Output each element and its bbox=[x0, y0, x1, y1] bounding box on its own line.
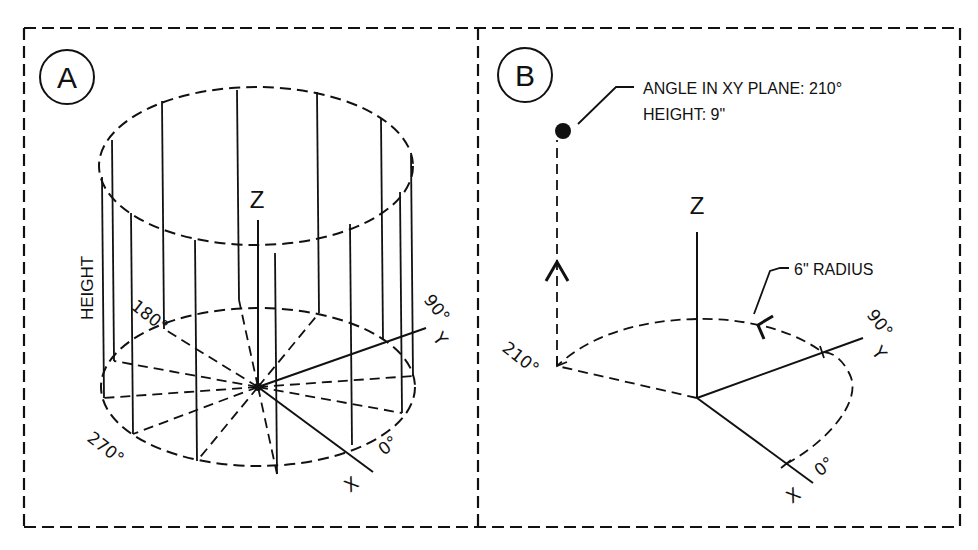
panel-a-label: A bbox=[57, 61, 77, 94]
cylinder-top-ellipse bbox=[99, 87, 413, 245]
angle-label-210: 210° bbox=[499, 337, 544, 378]
target-point bbox=[555, 123, 571, 139]
radius-label: 6" RADIUS bbox=[794, 261, 873, 278]
callout-leader bbox=[578, 87, 634, 124]
angle-label-0-b: 0° bbox=[810, 452, 838, 480]
panel-a bbox=[40, 50, 426, 474]
y-axis-b bbox=[697, 338, 863, 398]
radius-line-210 bbox=[557, 366, 697, 398]
angle-label-270: 270° bbox=[84, 427, 129, 468]
x-axis-label-b: X bbox=[782, 483, 804, 507]
cylindrical-coordinates-figure: A Z HEIGHT 180° 90° 270° 0° Y X B ANGLE … bbox=[0, 0, 978, 550]
panel-b-label: B bbox=[515, 59, 535, 92]
height-label: HEIGHT bbox=[78, 256, 97, 320]
point-210-arrow bbox=[557, 356, 567, 366]
angle-label-90-a: 90° bbox=[420, 290, 454, 326]
origin-a bbox=[254, 383, 262, 391]
radius-arc bbox=[557, 319, 853, 464]
z-axis-label-a: Z bbox=[250, 186, 265, 213]
angle-label-0-a: 0° bbox=[374, 431, 402, 459]
x-axis-b bbox=[697, 398, 813, 483]
callout-height-text: HEIGHT: 9" bbox=[643, 106, 725, 123]
x-axis-a bbox=[258, 387, 373, 472]
radius-leader bbox=[754, 268, 789, 314]
callout-angle-text: ANGLE IN XY PLANE: 210° bbox=[643, 80, 842, 97]
x-axis-label-a: X bbox=[340, 472, 362, 496]
y-axis-label-a: Y bbox=[428, 327, 453, 350]
angle-label-90-b: 90° bbox=[863, 305, 897, 341]
z-axis-label-b: Z bbox=[690, 192, 705, 219]
y-axis-label-b: Y bbox=[867, 341, 892, 364]
